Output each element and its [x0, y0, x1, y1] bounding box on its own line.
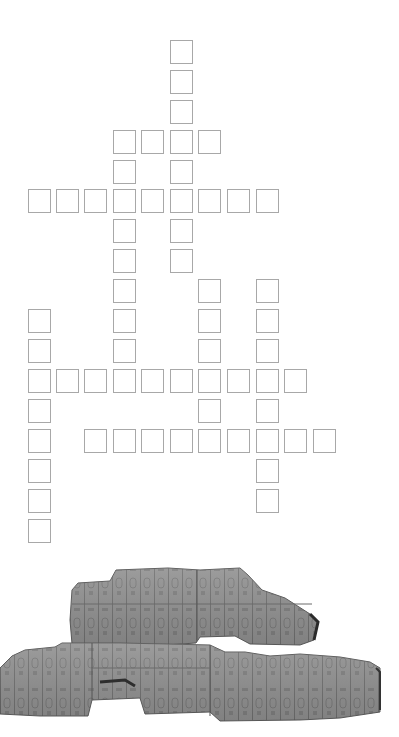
crossword-cell[interactable] [84, 189, 107, 213]
crossword-cell[interactable] [28, 429, 51, 453]
crossword-cell-input[interactable] [142, 370, 163, 392]
crossword-cell-input[interactable] [57, 370, 78, 392]
crossword-cell[interactable] [198, 279, 221, 303]
crossword-cell[interactable] [113, 369, 136, 393]
crossword-cell-input[interactable] [228, 190, 249, 212]
crossword-cell[interactable] [198, 339, 221, 363]
crossword-cell[interactable] [113, 249, 136, 273]
crossword-cell-input[interactable] [114, 161, 135, 183]
crossword-cell[interactable] [113, 279, 136, 303]
crossword-cell[interactable] [113, 160, 136, 184]
crossword-cell-input[interactable] [171, 220, 192, 242]
crossword-cell[interactable] [284, 429, 307, 453]
crossword-cell-input[interactable] [171, 190, 192, 212]
crossword-cell-input[interactable] [114, 190, 135, 212]
crossword-cell[interactable] [227, 429, 250, 453]
crossword-cell-input[interactable] [85, 370, 106, 392]
crossword-cell-input[interactable] [114, 250, 135, 272]
crossword-cell[interactable] [28, 399, 51, 423]
crossword-cell[interactable] [84, 369, 107, 393]
crossword-cell-input[interactable] [114, 370, 135, 392]
crossword-cell-input[interactable] [199, 310, 220, 332]
crossword-cell-input[interactable] [257, 310, 278, 332]
crossword-cell[interactable] [28, 369, 51, 393]
crossword-cell[interactable] [256, 369, 279, 393]
crossword-cell[interactable] [28, 489, 51, 513]
crossword-cell[interactable] [170, 219, 193, 243]
crossword-cell-input[interactable] [114, 131, 135, 153]
crossword-cell-input[interactable] [85, 190, 106, 212]
crossword-cell[interactable] [170, 130, 193, 154]
crossword-cell-input[interactable] [257, 430, 278, 452]
crossword-cell[interactable] [141, 429, 164, 453]
crossword-cell-input[interactable] [171, 71, 192, 93]
crossword-cell-input[interactable] [257, 340, 278, 362]
crossword-cell-input[interactable] [257, 190, 278, 212]
crossword-cell-input[interactable] [114, 430, 135, 452]
crossword-cell-input[interactable] [29, 520, 50, 542]
crossword-cell-input[interactable] [142, 131, 163, 153]
crossword-cell[interactable] [256, 459, 279, 483]
crossword-cell-input[interactable] [142, 190, 163, 212]
crossword-cell-input[interactable] [171, 250, 192, 272]
crossword-cell-input[interactable] [171, 161, 192, 183]
crossword-cell[interactable] [56, 369, 79, 393]
crossword-cell-input[interactable] [29, 490, 50, 512]
crossword-cell[interactable] [170, 70, 193, 94]
crossword-cell[interactable] [227, 369, 250, 393]
crossword-cell[interactable] [198, 429, 221, 453]
crossword-cell-input[interactable] [285, 430, 306, 452]
crossword-cell-input[interactable] [114, 310, 135, 332]
crossword-cell-input[interactable] [29, 190, 50, 212]
crossword-cell-input[interactable] [114, 340, 135, 362]
crossword-cell[interactable] [170, 429, 193, 453]
crossword-cell[interactable] [256, 429, 279, 453]
crossword-cell[interactable] [170, 189, 193, 213]
crossword-cell-input[interactable] [199, 190, 220, 212]
crossword-cell[interactable] [198, 369, 221, 393]
crossword-cell[interactable] [28, 519, 51, 543]
crossword-cell-input[interactable] [228, 430, 249, 452]
crossword-cell[interactable] [256, 279, 279, 303]
crossword-cell[interactable] [198, 189, 221, 213]
crossword-cell[interactable] [113, 219, 136, 243]
crossword-cell[interactable] [113, 339, 136, 363]
crossword-cell[interactable] [170, 100, 193, 124]
crossword-cell[interactable] [141, 189, 164, 213]
crossword-cell-input[interactable] [199, 280, 220, 302]
crossword-cell[interactable] [56, 189, 79, 213]
crossword-cell-input[interactable] [257, 460, 278, 482]
crossword-cell[interactable] [28, 459, 51, 483]
crossword-cell[interactable] [227, 189, 250, 213]
crossword-cell-input[interactable] [257, 280, 278, 302]
crossword-cell-input[interactable] [314, 430, 335, 452]
crossword-cell-input[interactable] [199, 400, 220, 422]
crossword-cell[interactable] [170, 160, 193, 184]
crossword-cell-input[interactable] [171, 370, 192, 392]
crossword-cell[interactable] [170, 249, 193, 273]
crossword-cell-input[interactable] [29, 370, 50, 392]
crossword-cell[interactable] [170, 40, 193, 64]
crossword-cell[interactable] [198, 130, 221, 154]
crossword-cell-input[interactable] [29, 340, 50, 362]
crossword-cell[interactable] [141, 369, 164, 393]
crossword-cell[interactable] [284, 369, 307, 393]
crossword-cell-input[interactable] [171, 41, 192, 63]
crossword-cell-input[interactable] [85, 430, 106, 452]
crossword-cell-input[interactable] [171, 131, 192, 153]
crossword-cell[interactable] [256, 309, 279, 333]
crossword-cell[interactable] [84, 429, 107, 453]
crossword-cell-input[interactable] [199, 430, 220, 452]
crossword-cell[interactable] [256, 339, 279, 363]
crossword-cell-input[interactable] [29, 430, 50, 452]
crossword-cell-input[interactable] [257, 400, 278, 422]
crossword-cell-input[interactable] [29, 400, 50, 422]
crossword-cell[interactable] [113, 309, 136, 333]
crossword-cell-input[interactable] [171, 101, 192, 123]
crossword-cell[interactable] [256, 399, 279, 423]
crossword-cell-input[interactable] [114, 280, 135, 302]
crossword-cell[interactable] [113, 130, 136, 154]
crossword-cell[interactable] [113, 189, 136, 213]
crossword-cell-input[interactable] [29, 460, 50, 482]
crossword-cell[interactable] [170, 369, 193, 393]
